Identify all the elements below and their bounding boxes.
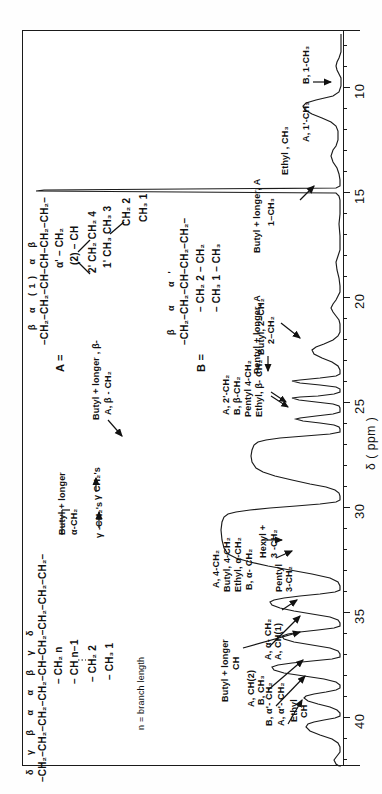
axis-minor-tick <box>343 129 347 130</box>
axis-minor-tick <box>343 591 347 592</box>
axis-label-15: 15 <box>352 189 367 204</box>
chemical-shift-axis <box>343 30 344 766</box>
axis-minor-tick <box>343 108 347 109</box>
structure-bottom-greek-row: δ γ β α α β γ δ <box>26 625 36 775</box>
annotation-a-2p-ch2: A, 2'-CH₂ <box>222 375 232 415</box>
annotation-a-4-ch2: A, 4-CH₂ <box>212 550 222 588</box>
axis-minor-tick <box>343 654 347 655</box>
structure-b-greek-row: β α α' <box>167 263 177 335</box>
annotation-b-1-ch3: B, 1-CH₃ <box>302 46 312 84</box>
axis-label-35: 35 <box>352 609 367 624</box>
annotation-a-beta-ch2: A, β - CH₂ <box>104 371 114 415</box>
axis-minor-tick <box>343 45 347 46</box>
axis-label-40: 40 <box>352 714 367 729</box>
annotation-pentyl-3-ch2: 3-CH₂ <box>285 566 295 592</box>
axis-label-25: 25 <box>352 399 367 414</box>
annotation-hexyl-3-ch2: 3 -CH₂ <box>270 529 280 558</box>
axis-minor-tick <box>343 570 347 571</box>
axis-tick-15 <box>343 192 350 193</box>
axis-label-20: 20 <box>352 294 367 309</box>
annotation-butyl-2-ch2: Butyl, 2–CH₂ <box>257 298 267 355</box>
structure-top-branch-5: CH₂ 2 <box>122 198 133 226</box>
structure-b-backbone: –CH₂–CH₂–CH–CH₂–CH₂– <box>180 218 191 345</box>
annotation-b-ap-ch2: B, α'- CH₂ <box>265 682 275 726</box>
axis-tick-20 <box>343 297 350 298</box>
axis-tick-25 <box>343 402 350 403</box>
structure-top-branch-4: 1' CH₃ CH₃ 3 <box>103 206 114 268</box>
axis-minor-tick <box>343 759 347 760</box>
annotation-a-ch1: A, CH(1) <box>274 623 284 660</box>
annotation-butyl-longer-ch: Butyl + longer <box>221 639 231 702</box>
axis-minor-tick <box>343 150 347 151</box>
structure-top-backbone: –CH₂–CH₂–CH–CH–CH₂–CH₂– <box>40 197 51 345</box>
figure-canvas: 10 15 20 25 30 35 40 δ ( ppm ) <box>0 0 382 794</box>
structure-top-branch-2: (2) – CH <box>70 226 81 265</box>
axis-tick-35 <box>343 612 350 613</box>
axis-minor-tick <box>343 360 347 361</box>
structure-top-branch-6: CH₃ 1 <box>139 194 150 222</box>
structure-bottom-side-3: – CH₂ 2 <box>88 645 99 682</box>
structure-top-greek-row: β α (1) α β <box>28 237 38 330</box>
axis-tick-30 <box>343 507 350 508</box>
axis-minor-tick <box>343 486 347 487</box>
axis-label-10: 10 <box>352 84 367 99</box>
annotation-butyl-longer-ch2: CH <box>232 657 242 670</box>
structure-top-branch-3: 2' CH₂ CH₂ 4 <box>88 211 99 273</box>
annotation-butyl-longer-beta: Butyl + longer , β- <box>92 340 102 420</box>
axis-minor-tick <box>343 339 347 340</box>
structure-b-label: B = <box>196 354 208 372</box>
axis-minor-tick <box>343 465 347 466</box>
annotation-butyl-longer-alpha: Butyl + longer <box>58 472 68 535</box>
axis-minor-tick <box>343 423 347 424</box>
annotation-ethyl-beta-ch2: Ethyl, β- CH₂ <box>255 359 265 417</box>
axis-minor-tick <box>343 171 347 172</box>
structure-bottom-side-2: – CH n−1 <box>70 639 81 684</box>
structure-bottom-backbone: –CH₂–CH₂–CH₂–CH₂–CH–CH₂–CH₂–CH₂–CH₂– <box>38 554 49 782</box>
structure-top-branch-1: α' – CH₂ <box>55 228 66 268</box>
axis-minor-tick <box>343 444 347 445</box>
structure-b-row3: – CH₃ 1 – CH₃ <box>212 243 223 312</box>
annotation-gamma-ch2s-upper: γ CH₂'s <box>93 467 103 500</box>
annotation-ethyl-alpha-ch2: Ethyl, α-CH₂ <box>234 537 244 592</box>
axis-minor-tick <box>343 318 347 319</box>
structure-b-row2: – CH₂ 2 – CH₂ <box>196 244 207 312</box>
structure-bottom-side-1: – CH₂ n <box>54 646 65 684</box>
annotation-pentyl-4-ch2: Pentyl 4-CH₂ <box>244 360 254 417</box>
structure-branch-length-note: n = branch length <box>137 657 147 730</box>
axis-minor-tick <box>343 213 347 214</box>
axis-title: δ ( ppm ) <box>364 417 378 470</box>
annotation-ethyl-ch: CH <box>300 705 310 718</box>
annotation-butyl-longer-a: Butyl + longer, A <box>253 179 263 253</box>
axis-minor-tick <box>343 66 347 67</box>
axis-minor-tick <box>343 738 347 739</box>
axis-minor-tick <box>343 675 347 676</box>
axis-minor-tick <box>343 528 347 529</box>
structure-a-label: A = <box>55 354 67 372</box>
axis-minor-tick <box>343 234 347 235</box>
annotation-ethyl-ch3: Ethyl , CH₃ <box>281 126 291 175</box>
annotation-butyl-4-ch2: Butyl, 4-CH₂ <box>223 537 233 592</box>
axis-minor-tick <box>343 255 347 256</box>
annotation-gamma-ch2s-lower: γ -CH₂'s <box>95 502 105 538</box>
axis-minor-tick <box>343 549 347 550</box>
structure-bottom-side-4: – CH₃ 1 <box>105 643 116 680</box>
axis-label-30: 30 <box>352 504 367 519</box>
annotation-b-alpha-ch2: B, α- CH₂ <box>245 549 255 590</box>
annotation-a-ap-ch2: A, α'- CH₂ <box>277 682 287 726</box>
annotation-butyl-longer-a-1ch3: 1–CH₃ <box>267 198 277 226</box>
annotation-a-1p-ch3: A, 1'-CH₃ <box>302 101 312 142</box>
axis-minor-tick <box>343 633 347 634</box>
axis-tick-10 <box>343 87 350 88</box>
annotation-alpha-ch2: α-CH₂ <box>70 508 80 535</box>
axis-tick-40 <box>343 717 350 718</box>
annotation-b-beta-ch2: B, β-CH₂ <box>233 376 243 415</box>
axis-minor-tick <box>343 696 347 697</box>
annotation-pentyl-longer-2ch2: 2–CH₂ <box>267 316 277 344</box>
axis-minor-tick <box>343 381 347 382</box>
annotation-hexyl-plus: Hexyl + <box>259 525 269 558</box>
axis-minor-tick <box>343 276 347 277</box>
